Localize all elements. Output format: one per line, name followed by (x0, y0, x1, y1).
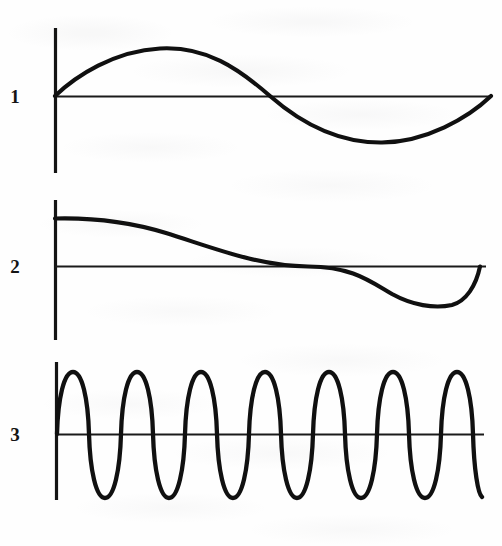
waveform-figure: 1 2 3 (0, 0, 502, 546)
waveform-panel-3 (55, 362, 484, 500)
cosine-curve-2 (55, 218, 480, 306)
waveform-panel-1 (55, 28, 492, 173)
waveform-canvas (0, 0, 502, 546)
waveform-panel-2 (55, 200, 486, 340)
sine-curve-1 (55, 48, 491, 142)
